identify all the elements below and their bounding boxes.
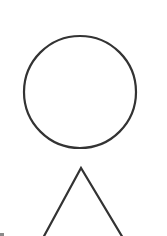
circle-shape	[24, 36, 136, 148]
corner-mark	[0, 233, 4, 236]
diagram-canvas	[0, 0, 167, 236]
triangle-shape	[43, 168, 123, 236]
